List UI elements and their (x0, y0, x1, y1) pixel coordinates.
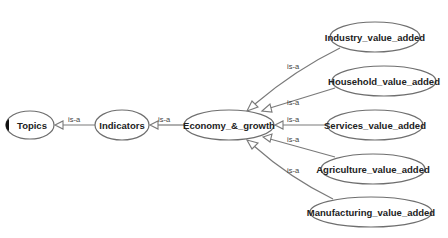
collapse-marker-icon[interactable] (6, 119, 9, 131)
arrow-head-icon (275, 121, 283, 129)
node-topics[interactable]: Topics (6, 111, 54, 139)
edge-label: is-a (287, 115, 300, 124)
edge-label: is-a (287, 135, 300, 144)
node-services-value-added[interactable]: Services_value_added (324, 110, 426, 140)
node-economy-growth[interactable]: Economy_&_growth (183, 110, 275, 140)
node-label: Indicators (99, 120, 144, 131)
ontology-graph-canvas: is-a is-a is-a is-a is-a is-a is-a (0, 0, 448, 238)
node-manufacturing-value-added[interactable]: Manufacturing_value_added (307, 197, 435, 227)
node-indicators[interactable]: Indicators (95, 110, 149, 140)
node-label: Topics (17, 120, 47, 131)
node-label: Industry_value_added (325, 32, 426, 43)
node-label: Agriculture_value_added (316, 164, 430, 175)
arrow-head-icon (263, 134, 272, 142)
node-label: Services_value_added (324, 120, 426, 131)
edge-services-economy: is-a (275, 115, 327, 129)
edge-economy-indicators: is-a (150, 115, 185, 129)
edge-agriculture-economy: is-a (263, 134, 335, 157)
arrow-head-icon (150, 121, 158, 129)
edge-label: is-a (287, 62, 300, 71)
node-household-value-added[interactable]: Household_value_added (328, 66, 440, 96)
node-industry-value-added[interactable]: Industry_value_added (325, 22, 426, 52)
node-agriculture-value-added[interactable]: Agriculture_value_added (316, 154, 430, 184)
ontology-graph: is-a is-a is-a is-a is-a is-a is-a (0, 0, 448, 238)
edge-household-economy: is-a (262, 88, 335, 112)
edge-label: is-a (287, 166, 300, 175)
arrow-head-icon (262, 104, 272, 112)
edge-indicators-topics: is-a (55, 115, 95, 129)
arrow-head-icon (55, 121, 63, 129)
node-label: Economy_&_growth (183, 120, 275, 131)
node-label: Household_value_added (328, 76, 440, 87)
edge-label: is-a (158, 115, 171, 124)
node-label: Manufacturing_value_added (307, 207, 435, 218)
edge-label: is-a (287, 98, 300, 107)
edge-label: is-a (68, 115, 81, 124)
